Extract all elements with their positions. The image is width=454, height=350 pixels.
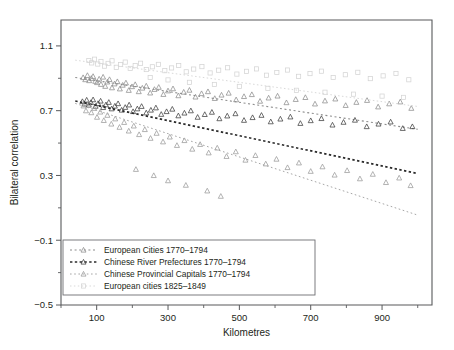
data-point: [354, 100, 359, 105]
data-point: [133, 64, 137, 68]
x-tick-label: 700: [303, 312, 319, 323]
data-point: [333, 96, 338, 101]
data-point: [150, 65, 154, 69]
data-point: [133, 82, 138, 87]
data-point: [364, 124, 369, 129]
data-point: [136, 89, 141, 94]
data-point: [383, 180, 388, 185]
data-point: [226, 90, 231, 95]
data-point: [296, 160, 301, 165]
data-point: [274, 156, 279, 161]
data-point: [217, 116, 222, 121]
data-point: [308, 169, 313, 174]
data-point: [187, 80, 191, 84]
data-point: [133, 167, 138, 172]
data-point: [351, 92, 355, 96]
data-point: [253, 153, 258, 158]
data-point: [188, 108, 193, 113]
data-point: [308, 118, 313, 123]
data-point: [138, 61, 142, 65]
data-point: [288, 114, 293, 119]
data-point: [83, 108, 88, 113]
data-point: [397, 175, 402, 180]
data-point: [388, 119, 393, 124]
data-point: [368, 77, 372, 81]
data-point: [401, 95, 405, 99]
data-point: [320, 164, 325, 169]
data-point: [303, 95, 308, 100]
data-point: [156, 85, 161, 90]
data-point: [387, 101, 392, 106]
data-point: [142, 127, 147, 132]
y-tick-label: 0.3: [40, 170, 53, 181]
data-point: [254, 67, 258, 71]
data-point: [123, 80, 128, 85]
y-tick-label: 0.7: [40, 105, 53, 116]
data-point: [380, 94, 384, 98]
data-point: [89, 110, 94, 115]
series-2: [75, 101, 417, 215]
data-point: [161, 92, 166, 97]
data-point: [144, 110, 149, 115]
data-point: [128, 66, 132, 70]
data-point: [219, 92, 224, 97]
data-point: [332, 172, 337, 177]
data-point: [242, 118, 247, 123]
data-point: [356, 70, 360, 74]
data-point: [331, 75, 335, 79]
data-point: [166, 178, 171, 183]
data-point: [233, 111, 238, 116]
data-point: [376, 104, 381, 109]
data-point: [126, 128, 131, 133]
data-point: [206, 150, 211, 155]
legend-label-1: Chinese River Prefectures 1770–1794: [104, 257, 246, 267]
data-point: [105, 113, 110, 118]
data-point: [123, 60, 127, 64]
data-point: [195, 115, 200, 120]
data-point: [166, 78, 170, 82]
trend-line-3: [75, 60, 417, 106]
data-point: [107, 77, 112, 82]
legend-label-3: European cities 1825–1849: [104, 281, 206, 291]
data-point: [205, 89, 210, 94]
data-point: [171, 86, 176, 91]
data-point: [365, 98, 370, 103]
x-axis-title: Kilometres: [223, 327, 270, 338]
data-point: [148, 136, 153, 141]
data-point: [144, 83, 149, 88]
data-point: [85, 73, 90, 78]
data-point: [408, 183, 413, 188]
y-tick-label: −0.5: [34, 299, 53, 310]
data-point: [319, 69, 323, 73]
data-point: [106, 100, 111, 105]
data-point: [95, 115, 100, 120]
data-point: [285, 68, 289, 72]
legend-label-2: Chinese Provincial Capitals 1770–1794: [104, 269, 251, 279]
data-point: [148, 107, 153, 112]
x-tick-label: 100: [89, 312, 105, 323]
data-point: [154, 131, 159, 136]
data-point: [209, 110, 214, 115]
data-point: [187, 88, 192, 93]
data-point: [170, 106, 175, 111]
data-point: [285, 165, 290, 170]
data-point: [101, 74, 106, 79]
data-point: [275, 70, 279, 74]
data-point: [250, 115, 255, 120]
data-point: [343, 103, 348, 108]
data-point: [244, 69, 248, 73]
data-point: [177, 63, 181, 67]
data-point: [115, 79, 120, 84]
scatter-plot: 1.10.70.3−0.1−0.5100300500700900Kilometr…: [0, 0, 454, 350]
data-point: [370, 172, 375, 177]
data-point: [166, 88, 171, 93]
data-point: [308, 71, 312, 75]
data-point: [330, 122, 335, 127]
data-point: [217, 68, 221, 72]
data-point: [127, 102, 132, 107]
data-layer: [75, 57, 417, 215]
data-point: [312, 101, 317, 106]
trend-line-0: [75, 77, 417, 129]
trend-line-1: [75, 101, 417, 174]
y-axis-title: Bilateral correlation: [9, 120, 20, 206]
